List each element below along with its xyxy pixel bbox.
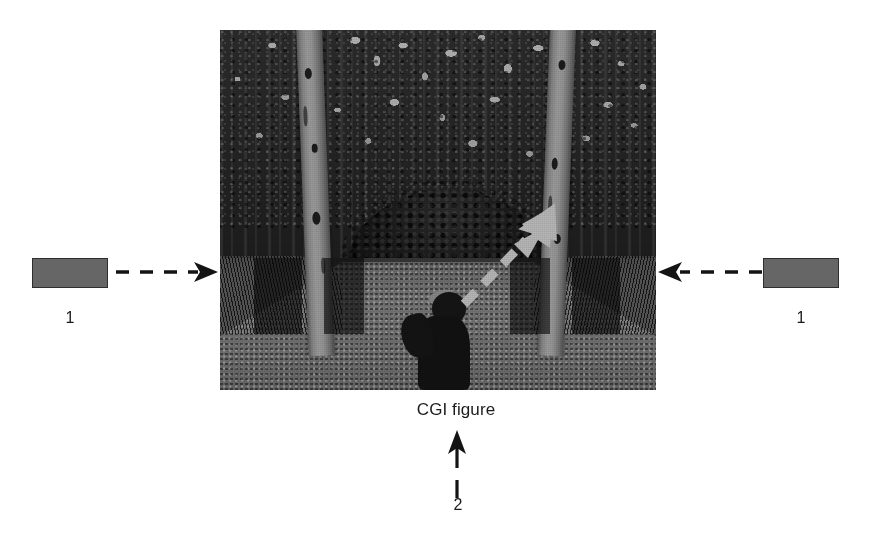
caption-text: CGI figure [417,400,495,419]
white-dashed-arrow-icon [452,198,570,316]
callout-label-bottom-2: 2 [438,497,478,513]
bark-knot [305,68,312,79]
bark-knot [312,144,318,153]
callout-label-right-1: 1 [781,310,821,326]
dark-region-left-outer [254,258,302,334]
figure-canvas: 1 1 CGI figure 2 [0,0,874,548]
bark-knot [551,158,557,170]
bark-knot [558,60,565,70]
leader-arrow-bottom-icon [436,428,478,500]
callout-label-left-1: 1 [50,310,90,326]
dark-region-right-outer [572,258,620,334]
bark-knot [312,212,320,225]
leader-arrow-left-icon [114,258,222,286]
figure-caption: CGI figure [0,400,874,420]
forest-photograph [220,30,656,390]
leader-arrow-right-icon [652,258,764,286]
callout-swatch-left [32,258,108,288]
bark-mark [303,106,308,126]
photo-content [220,30,656,390]
dark-region-left-inner [324,258,364,334]
callout-swatch-right [763,258,839,288]
